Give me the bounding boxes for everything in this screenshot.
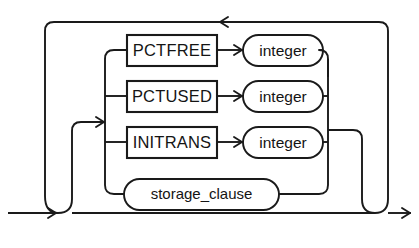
branch-exit-uturn <box>362 196 388 213</box>
branch-entry-rail <box>72 122 105 199</box>
initrans-keyword-label: INITRANS <box>133 133 212 151</box>
loopback-rail-left-uturn <box>45 196 72 213</box>
branch-exit-rail <box>328 130 362 199</box>
syntax-diagram: PCTFREE integer PCTUSED integer INITRANS… <box>0 0 419 248</box>
rail-bus-to-pctfree <box>105 50 127 59</box>
pctused-keyword-label: PCTUSED <box>132 87 212 105</box>
pctfree-integer-label: integer <box>259 42 306 59</box>
initrans-integer-label: integer <box>259 134 306 151</box>
storage-clause-label: storage_clause <box>151 185 253 202</box>
rail-bus-to-storage-clause <box>105 185 124 194</box>
pctused-integer-label: integer <box>259 88 306 105</box>
rail-storage-clause-to-bus <box>279 181 328 194</box>
railroad-diagram-svg: PCTFREE integer PCTUSED integer INITRANS… <box>0 0 419 248</box>
pctfree-keyword-label: PCTFREE <box>133 41 211 59</box>
